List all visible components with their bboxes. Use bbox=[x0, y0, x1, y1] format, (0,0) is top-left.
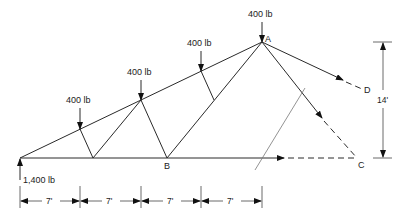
dim-span-3-label: 7' bbox=[167, 196, 174, 206]
load-label-1: 400 lb bbox=[66, 95, 91, 105]
load-label-apex: 400 lb bbox=[248, 9, 273, 19]
truss-diagram: 400 lb 400 lb 400 lb 400 lb 1,400 lb A B… bbox=[0, 0, 402, 219]
dim-height-label: 14' bbox=[377, 95, 388, 105]
node-label-B: B bbox=[164, 161, 170, 171]
web-member-3 bbox=[141, 100, 167, 158]
web-member-1 bbox=[80, 129, 93, 158]
dim-span-2-label: 7' bbox=[106, 196, 113, 206]
member-A-to-D-dashed bbox=[346, 82, 362, 89]
dim-span-1-label: 7' bbox=[46, 196, 53, 206]
reaction-label: 1,400 lb bbox=[23, 175, 55, 185]
node-label-C: C bbox=[358, 160, 365, 170]
dim-span-4-label: 7' bbox=[227, 196, 234, 206]
load-label-2: 400 lb bbox=[127, 67, 152, 77]
member-A-to-C bbox=[262, 42, 322, 118]
node-label-A: A bbox=[265, 34, 271, 44]
node-label-D: D bbox=[364, 85, 371, 95]
member-A-to-C-dashed bbox=[324, 121, 357, 158]
web-member-5 bbox=[201, 71, 214, 100]
member-A-to-D bbox=[262, 42, 343, 80]
web-member-2 bbox=[93, 100, 141, 158]
web-member-4 bbox=[167, 42, 262, 158]
load-label-3: 400 lb bbox=[187, 38, 212, 48]
